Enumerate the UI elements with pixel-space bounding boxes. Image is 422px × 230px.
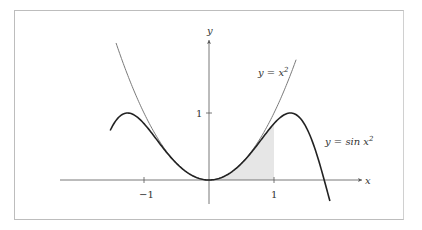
x-axis-label: x	[365, 175, 371, 186]
x-tick-label-neg1: −1	[139, 189, 154, 200]
y-axis-label: y	[206, 25, 213, 36]
sine-label: y = sin x2	[324, 135, 374, 147]
sine-curve	[110, 113, 330, 201]
x-tick-label-1: 1	[271, 189, 277, 200]
plot-canvas: x y −1 1 1 y = x2 y = sin x2	[0, 0, 422, 230]
parabola-label: y = x2	[257, 66, 289, 78]
y-tick-label-1: 1	[196, 108, 202, 119]
